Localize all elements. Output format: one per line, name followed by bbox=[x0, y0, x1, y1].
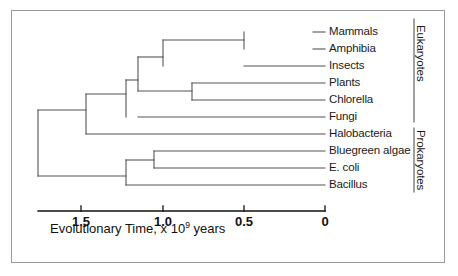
leaf-label-halobacteria: Halobacteria bbox=[329, 128, 392, 140]
phylogenetic-tree-figure: MammalsAmphibiaInsectsPlantsChlorellaFun… bbox=[0, 0, 458, 276]
leaf-label-e-coli: E. coli bbox=[329, 162, 359, 174]
leaf-label-bacillus: Bacillus bbox=[329, 179, 367, 191]
leaf-label-chlorella: Chlorella bbox=[329, 94, 373, 106]
axis-title-prefix: Evolutionary Time, x 10 bbox=[50, 221, 185, 236]
group-label-prokaryotes: Prokaryotes bbox=[415, 130, 427, 190]
axis-layer bbox=[38, 206, 325, 211]
axis-title-suffix: years bbox=[190, 221, 225, 236]
axis-tick-label-0: 0 bbox=[305, 215, 345, 228]
axis-title: Evolutionary Time, x 109 years bbox=[50, 222, 225, 236]
leaf-label-plants: Plants bbox=[329, 77, 360, 89]
leaf-label-amphibia: Amphibia bbox=[329, 43, 376, 55]
leaf-label-fungi: Fungi bbox=[329, 111, 357, 123]
axis-tick-label-0.5: 0.5 bbox=[224, 215, 264, 228]
leaf-label-bluegreen-algae: Bluegreen algae bbox=[329, 145, 411, 157]
leaf-label-mammals: Mammals bbox=[329, 26, 378, 38]
leaf-label-insects: Insects bbox=[329, 60, 364, 72]
group-label-eukaryotes: Eukaryotes bbox=[415, 25, 427, 82]
branch-layer bbox=[38, 32, 325, 185]
